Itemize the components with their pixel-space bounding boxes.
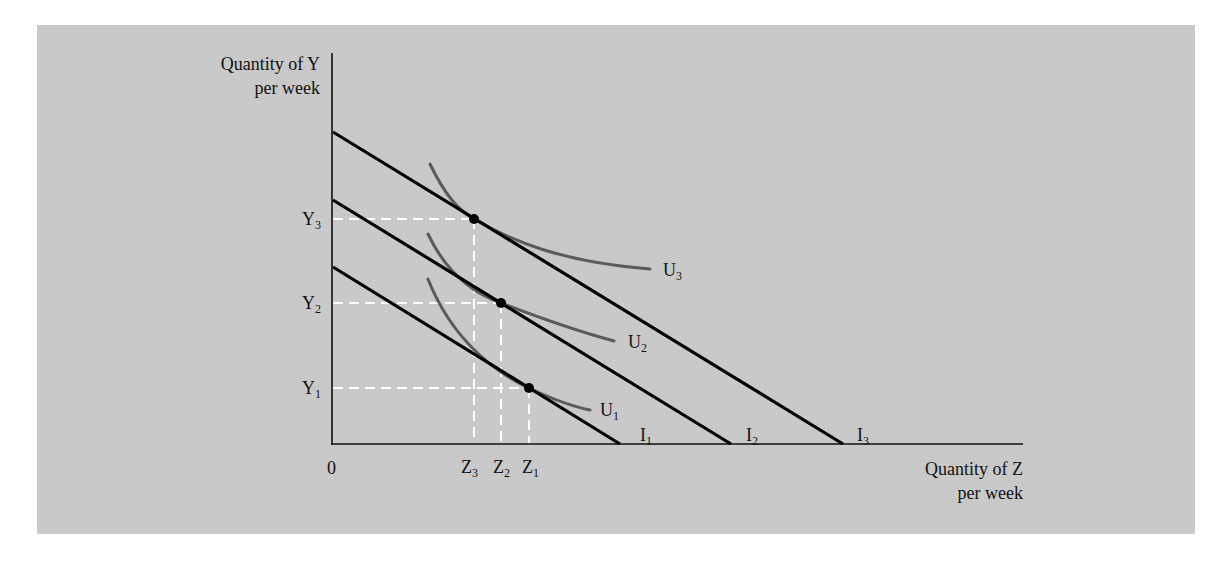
y1-text: Y: [302, 378, 315, 398]
u2-sub: 2: [641, 341, 647, 355]
u1-sub: 1: [613, 409, 619, 423]
y1-label: Y1: [302, 378, 321, 404]
budget-line-i1: [333, 267, 620, 444]
i1-label: I1: [640, 425, 652, 451]
z3-label: Z3: [461, 457, 478, 483]
y3-label: Y3: [302, 209, 321, 235]
z3-text: Z: [461, 457, 472, 477]
indifference-curve-u3: [430, 164, 650, 269]
i2-label: I2: [746, 425, 758, 451]
z3-sub: 3: [472, 466, 478, 480]
y3-sub: 3: [315, 218, 321, 232]
x-axis-title: Quantity of Z per week: [870, 459, 1023, 503]
i2-sub: 2: [752, 434, 758, 448]
u1-label: U1: [600, 400, 619, 426]
u2-label: U2: [628, 332, 647, 358]
i3-sub: 3: [863, 434, 869, 448]
tangent-point-1: [524, 383, 534, 393]
dashed-guides: [333, 219, 529, 443]
tangent-point-2: [496, 298, 506, 308]
budget-line-i2: [333, 200, 731, 444]
z2-sub: 2: [504, 466, 510, 480]
u3-text: U: [663, 260, 676, 280]
u2-text: U: [628, 332, 641, 352]
z1-label: Z1: [522, 457, 539, 483]
y1-sub: 1: [315, 387, 321, 401]
z1-text: Z: [522, 457, 533, 477]
u3-sub: 3: [676, 269, 682, 283]
u1-text: U: [600, 400, 613, 420]
y-axis-title: Quantity of Y per week: [170, 54, 320, 98]
tangent-point-3: [469, 214, 479, 224]
y-axis-title-line1: Quantity of Y: [170, 54, 320, 74]
y2-label: Y2: [302, 293, 321, 319]
budget-line-i3: [333, 132, 843, 444]
u3-label: U3: [663, 260, 682, 286]
z1-sub: 1: [533, 466, 539, 480]
x-axis-title-line1: Quantity of Z: [870, 459, 1023, 479]
z2-label: Z2: [493, 457, 510, 483]
y-axis-title-line2: per week: [170, 78, 320, 98]
y2-text: Y: [302, 293, 315, 313]
z2-text: Z: [493, 457, 504, 477]
y2-sub: 2: [315, 302, 321, 316]
origin-label: 0: [327, 458, 336, 478]
y3-text: Y: [302, 209, 315, 229]
x-axis-title-line2: per week: [870, 483, 1023, 503]
i1-sub: 1: [646, 434, 652, 448]
i3-label: I3: [857, 425, 869, 451]
